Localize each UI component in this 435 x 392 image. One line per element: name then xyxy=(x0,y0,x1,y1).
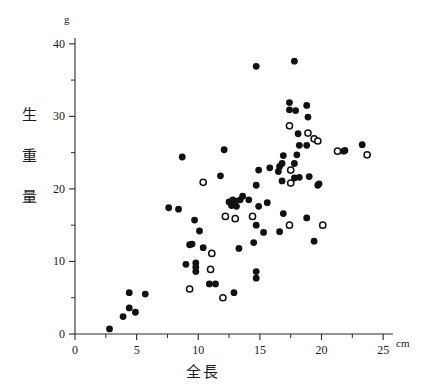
plot-canvas: 010203040 0510152025 xyxy=(0,0,435,392)
data-point-closed xyxy=(311,238,318,245)
y-axis-ticks: 010203040 xyxy=(53,37,75,341)
data-points-closed-circle xyxy=(106,58,365,333)
y-tick-label: 10 xyxy=(53,254,65,268)
data-point-closed xyxy=(305,114,312,121)
data-point-closed xyxy=(231,289,238,296)
data-point-closed xyxy=(260,229,267,236)
data-point-closed xyxy=(200,244,207,251)
data-point-closed xyxy=(250,239,257,246)
data-point-closed xyxy=(291,160,298,167)
data-point-closed xyxy=(206,281,213,288)
data-point-closed xyxy=(291,58,298,65)
data-point-open xyxy=(209,250,215,256)
data-point-open xyxy=(220,295,226,301)
data-point-closed xyxy=(295,130,302,137)
y-axis-title: 生 重 量 xyxy=(14,108,44,205)
y-tick-label: 30 xyxy=(53,109,65,123)
data-point-open xyxy=(320,222,326,228)
y-axis-unit-label: g xyxy=(64,13,70,25)
data-point-open xyxy=(222,213,228,219)
data-point-closed xyxy=(359,141,366,148)
data-point-closed xyxy=(286,99,293,106)
data-point-closed xyxy=(303,215,310,222)
data-point-closed xyxy=(253,182,260,189)
data-point-closed xyxy=(255,167,262,174)
data-point-closed xyxy=(233,203,240,210)
data-point-closed xyxy=(236,245,243,252)
scatter-plot-figure: 生 重 量 g cm 全長 010203040 0510152025 xyxy=(0,0,435,392)
data-point-closed xyxy=(165,204,172,211)
data-point-closed xyxy=(292,107,299,114)
x-axis-title: 全長 xyxy=(186,360,220,381)
data-point-closed xyxy=(279,160,286,167)
data-point-closed xyxy=(221,146,228,153)
x-tick-label: 10 xyxy=(192,343,204,357)
data-point-closed xyxy=(183,261,190,268)
y-axis-title-char-2: 重 xyxy=(22,149,37,164)
data-point-closed xyxy=(316,180,323,187)
data-point-open xyxy=(187,286,193,292)
data-point-closed xyxy=(293,151,300,158)
data-point-closed xyxy=(306,173,313,180)
data-point-closed xyxy=(253,63,260,70)
data-point-open xyxy=(232,216,238,222)
x-tick-label: 20 xyxy=(316,343,328,357)
data-point-closed xyxy=(253,268,260,275)
data-point-closed xyxy=(106,326,113,333)
data-point-closed xyxy=(255,203,262,210)
data-point-open xyxy=(334,148,340,154)
data-point-closed xyxy=(189,241,196,248)
x-tick-label: 5 xyxy=(134,343,140,357)
data-point-closed xyxy=(175,206,182,213)
data-point-closed xyxy=(303,102,310,109)
data-point-closed xyxy=(196,228,203,235)
data-point-closed xyxy=(253,275,260,282)
data-point-closed xyxy=(303,142,310,149)
data-point-open xyxy=(286,123,292,129)
data-point-closed xyxy=(132,309,139,316)
data-point-open xyxy=(286,222,292,228)
y-tick-label: 0 xyxy=(59,327,65,341)
data-point-closed xyxy=(280,210,287,217)
data-point-closed xyxy=(217,172,224,179)
x-tick-label: 15 xyxy=(254,343,266,357)
x-axis-unit-label: cm xyxy=(396,337,409,349)
data-point-closed xyxy=(126,289,133,296)
y-axis-title-char-3: 量 xyxy=(22,190,37,205)
data-point-open xyxy=(315,138,321,144)
data-point-closed xyxy=(342,147,349,154)
data-point-closed xyxy=(279,178,286,185)
data-point-closed xyxy=(192,268,199,275)
data-point-closed xyxy=(126,304,133,311)
data-point-closed xyxy=(286,106,293,113)
x-axis-ticks: 0510152025 xyxy=(72,334,389,357)
data-point-closed xyxy=(264,199,271,206)
x-tick-label: 0 xyxy=(72,343,78,357)
data-point-closed xyxy=(239,193,246,200)
data-point-closed xyxy=(280,152,287,159)
data-point-open xyxy=(305,130,311,136)
data-point-closed xyxy=(266,164,273,171)
data-point-closed xyxy=(191,217,198,224)
data-point-closed xyxy=(212,281,219,288)
data-point-closed xyxy=(245,196,252,203)
x-tick-label: 25 xyxy=(377,343,389,357)
data-point-closed xyxy=(179,154,186,161)
data-point-closed xyxy=(142,291,149,298)
data-point-closed xyxy=(276,228,283,235)
data-point-open xyxy=(288,180,294,186)
data-point-open xyxy=(364,152,370,158)
y-tick-label: 20 xyxy=(53,182,65,196)
y-axis-title-char-1: 生 xyxy=(22,108,37,123)
data-point-open xyxy=(288,167,294,173)
data-point-closed xyxy=(296,174,303,181)
data-point-open xyxy=(207,266,213,272)
data-point-closed xyxy=(296,142,303,149)
data-point-open xyxy=(200,179,206,185)
data-point-closed xyxy=(253,222,260,229)
data-point-open xyxy=(249,213,255,219)
data-point-closed xyxy=(120,313,127,320)
y-tick-label: 40 xyxy=(53,37,65,51)
